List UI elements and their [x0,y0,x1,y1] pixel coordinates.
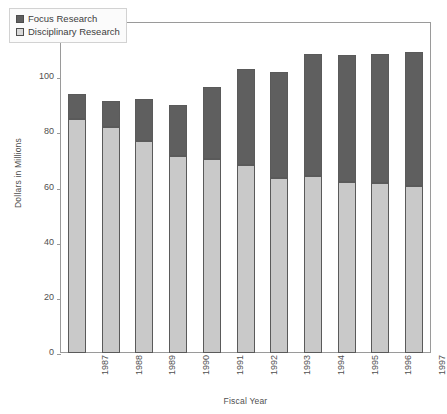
bar-group[interactable] [338,22,356,353]
x-axis-tick-label: 1997 [438,355,447,395]
bar-group[interactable] [169,22,187,353]
x-axis-tick-label: 1992 [270,355,279,395]
legend-label: Disciplinary Research [28,27,120,37]
x-axis-tick-label: 1991 [236,355,245,395]
bar-group[interactable] [135,22,153,353]
x-axis-tick-label: 1993 [303,355,312,395]
bar-segment-focus-research[interactable] [405,52,423,186]
chart-legend: Focus ResearchDisciplinary Research [9,8,127,43]
bar-group[interactable] [203,22,221,353]
bar-segment-disciplinary-research[interactable] [270,178,288,353]
bar-segment-disciplinary-research[interactable] [405,186,423,353]
legend-item[interactable]: Focus Research [16,12,120,25]
bar-segment-disciplinary-research[interactable] [68,119,86,353]
bar-segment-focus-research[interactable] [102,101,120,127]
x-axis-tick-label: 1994 [337,355,346,395]
bar-group[interactable] [304,22,322,353]
bar-segment-disciplinary-research[interactable] [338,182,356,353]
bar-segment-disciplinary-research[interactable] [102,127,120,353]
bar-group[interactable] [371,22,389,353]
bar-segment-focus-research[interactable] [304,54,322,177]
x-axis-tick-labels: 1987198819891990199119921993199419951996… [60,355,431,397]
bar-segment-disciplinary-research[interactable] [135,141,153,353]
bar-group[interactable] [270,22,288,353]
y-axis-tick-labels: 020406080100120 [24,0,54,414]
bar-segment-disciplinary-research[interactable] [371,183,389,353]
bar-segment-disciplinary-research[interactable] [237,165,255,353]
y-axis-tick-label: 40 [24,238,54,247]
y-axis-title: Dollars in Millions [13,93,23,253]
x-axis-tick-label: 1990 [202,355,211,395]
bar-segment-focus-research[interactable] [203,87,221,159]
bar-group[interactable] [68,22,86,353]
y-axis-tick-label: 80 [24,127,54,136]
y-axis-tick-label: 60 [24,183,54,192]
y-axis-tick-label: 100 [24,72,54,81]
x-axis-tick-label: 1989 [168,355,177,395]
y-axis-tick-label: 0 [24,348,54,357]
x-axis-title: Fiscal Year [60,396,431,406]
legend-swatch-icon [16,28,24,36]
x-axis-tick-label: 1988 [135,355,144,395]
bar-segment-disciplinary-research[interactable] [169,156,187,353]
bar-group[interactable] [102,22,120,353]
bar-segment-focus-research[interactable] [270,72,288,178]
bar-segment-focus-research[interactable] [135,99,153,140]
bar-segment-focus-research[interactable] [338,55,356,182]
x-axis-tick-label: 1987 [101,355,110,395]
x-axis-tick-label: 1996 [404,355,413,395]
bar-segment-focus-research[interactable] [371,54,389,184]
bar-segment-focus-research[interactable] [169,105,187,156]
legend-label: Focus Research [28,14,97,24]
bar-segment-disciplinary-research[interactable] [203,159,221,353]
bars-layer [60,22,431,353]
y-axis-tick-label: 20 [24,293,54,302]
x-axis-tick-label: 1995 [371,355,380,395]
bar-segment-focus-research[interactable] [237,69,255,166]
bar-group[interactable] [405,22,423,353]
bar-segment-disciplinary-research[interactable] [304,176,322,353]
bar-group[interactable] [237,22,255,353]
legend-item[interactable]: Disciplinary Research [16,25,120,38]
bar-segment-focus-research[interactable] [68,94,86,119]
legend-swatch-icon [16,15,24,23]
